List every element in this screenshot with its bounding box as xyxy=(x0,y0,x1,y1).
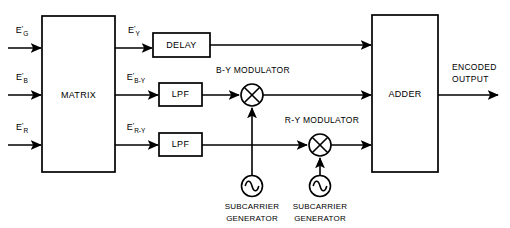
label-eb-sub: B xyxy=(24,77,28,84)
block-diagram-canvas: MATRIX DELAY LPF LPF B-Y MODULATOR xyxy=(0,0,510,228)
delay-block-label: DELAY xyxy=(166,40,196,50)
luminance-signal-label: E'Y xyxy=(128,24,141,37)
label-er-sub: R xyxy=(23,127,28,134)
label-ery-sub: R-Y xyxy=(134,127,146,134)
subcarrier-generator-2-symbol[interactable] xyxy=(310,176,331,197)
encoded-output-label-line2: OUTPUT xyxy=(452,74,489,84)
adder-block-label: ADDER xyxy=(388,89,421,99)
by-modulator-symbol[interactable] xyxy=(241,84,263,106)
subcarrier-generator-1-symbol[interactable] xyxy=(242,176,263,197)
subcarrier-generator-1-label-line1: SUBCARRIER xyxy=(225,202,279,211)
svg-text:E'R-Y: E'R-Y xyxy=(127,121,146,134)
lpf-lower-block-label: LPF xyxy=(172,139,190,149)
ry-modulator-title: R-Y MODULATOR xyxy=(285,115,359,125)
subcarrier-generator-2-label-line2: GENERATOR xyxy=(294,214,346,223)
label-eg-sub: G xyxy=(23,30,28,37)
svg-text:E'R: E'R xyxy=(16,121,29,134)
blue-primary-input-label: E'B xyxy=(16,71,28,84)
b-minus-y-signal-label: E'B-Y xyxy=(127,71,146,84)
matrix-block-label: MATRIX xyxy=(61,90,96,100)
red-primary-input-label: E'R xyxy=(16,121,29,134)
svg-text:E'Y: E'Y xyxy=(128,24,141,37)
ry-modulator-symbol[interactable] xyxy=(309,134,331,156)
block-diagram-svg: MATRIX DELAY LPF LPF B-Y MODULATOR xyxy=(0,0,510,228)
lpf-upper-block-label: LPF xyxy=(172,89,190,99)
label-ey-sub: Y xyxy=(136,30,141,37)
svg-text:E'G: E'G xyxy=(16,24,29,37)
svg-text:E'B: E'B xyxy=(16,71,28,84)
r-minus-y-signal-label: E'R-Y xyxy=(127,121,146,134)
by-modulator-title: B-Y MODULATOR xyxy=(216,65,290,75)
subcarrier-generator-1-label-line2: GENERATOR xyxy=(226,214,278,223)
green-primary-input-label: E'G xyxy=(16,24,29,37)
subcarrier-generator-2-label-line1: SUBCARRIER xyxy=(293,202,347,211)
label-eby-sub: B-Y xyxy=(134,77,146,84)
encoded-output-label-line1: ENCODED xyxy=(452,62,497,72)
svg-text:E'B-Y: E'B-Y xyxy=(127,71,146,84)
